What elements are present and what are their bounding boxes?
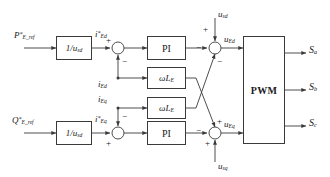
gain-block-q[interactable]: 1/usd: [56, 121, 92, 145]
label-p-reference: P*E_ref: [14, 31, 35, 41]
label-iq-reference: i*Eq: [95, 115, 107, 125]
coupling-block-d[interactable]: ωLE: [147, 67, 186, 89]
output-label-sa: Sa: [309, 45, 317, 55]
output-label-sc: Sc: [309, 118, 317, 128]
label-id-feedback: iEd: [98, 80, 107, 90]
sign-sumq-plus: +: [106, 139, 111, 148]
sign-sumd-plus: +: [106, 36, 111, 45]
label-ueq: uEq: [224, 120, 235, 130]
pi-controller-q[interactable]: PI: [147, 121, 186, 145]
label-usd-input: usd: [218, 10, 227, 20]
node-ieq: [117, 107, 120, 110]
wire-couplingq-cross-to-outd: [186, 54, 215, 108]
summing-junction-d: [112, 42, 124, 54]
output-label-sb: Sb: [309, 82, 317, 92]
label-id-reference: i*Ed: [95, 30, 107, 40]
sign-outq-plus-top: +: [217, 117, 222, 126]
label-iq-feedback: iEq: [98, 95, 107, 105]
node-ied: [117, 77, 120, 80]
sign-outq-minus-left: −: [196, 126, 201, 135]
label-ued: uEd: [224, 35, 235, 45]
label-usq-input: usq: [218, 162, 227, 172]
sign-outd-plus: +: [203, 25, 208, 34]
sign-sumd-minus: −: [122, 57, 127, 66]
pwm-block[interactable]: PWM: [243, 36, 285, 144]
block-diagram-canvas: P*E_ref Q*E_ref 1/usd 1/usd i*Ed i*Eq iE…: [0, 0, 330, 177]
gain-block-d[interactable]: 1/usd: [56, 36, 92, 60]
summing-junction-q: [112, 127, 124, 139]
wire-couplingd-cross-to-outq: [186, 78, 215, 127]
sign-outq-plus-bottom: +: [205, 139, 210, 148]
coupling-block-q[interactable]: ωLE: [147, 97, 186, 119]
sign-outd-minus-bottom: −: [217, 57, 222, 66]
output-junction-d: [209, 42, 221, 54]
pi-controller-d[interactable]: PI: [147, 36, 186, 60]
label-q-reference: Q*E_ref: [12, 116, 34, 126]
sign-sumq-minus: −: [122, 112, 127, 121]
output-junction-q: [209, 127, 221, 139]
sign-outd-minus-left: −: [196, 43, 201, 52]
